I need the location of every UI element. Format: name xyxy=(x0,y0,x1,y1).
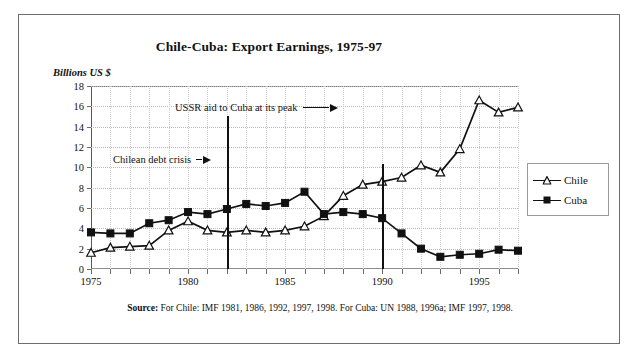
x-axis-tick-mark xyxy=(110,269,111,274)
chart-title: Chile-Cuba: Export Earnings, 1975-97 xyxy=(19,39,519,55)
x-axis-tick-mark xyxy=(91,269,92,274)
y-axis-tick-label: 6 xyxy=(54,203,84,214)
x-axis-tick-mark xyxy=(285,269,286,274)
annotation-text: USSR aid to Cuba at its peak xyxy=(175,102,298,113)
annotation-label: Chilean debt crisis xyxy=(113,154,211,165)
data-point-marker-square xyxy=(320,211,327,218)
x-axis-tick-mark xyxy=(382,269,383,274)
data-point-marker-square xyxy=(340,209,347,216)
x-axis-tick-mark xyxy=(402,269,403,274)
data-point-marker-triangle xyxy=(339,192,348,200)
legend-label: Cuba xyxy=(564,194,587,206)
annotation-vertical-line xyxy=(227,116,229,269)
data-point-marker-triangle xyxy=(475,96,484,104)
y-axis-tick-label: 12 xyxy=(54,142,84,153)
data-point-marker-square xyxy=(88,229,95,236)
legend-line-sample xyxy=(533,195,561,205)
y-axis-tick-label: 14 xyxy=(54,121,84,132)
x-axis-tick-mark xyxy=(421,269,422,274)
annotation-text: Chilean debt crisis xyxy=(113,154,191,165)
annotation-label: USSR aid to Cuba at its peak xyxy=(175,102,338,113)
data-point-marker-square xyxy=(359,211,366,218)
x-axis-tick-label: 1975 xyxy=(71,276,111,287)
x-axis-tick-mark xyxy=(266,269,267,274)
x-axis-tick-mark xyxy=(169,269,170,274)
legend-item-cuba[interactable]: Cuba xyxy=(533,191,587,209)
annotation-leader-line xyxy=(303,107,329,108)
data-point-marker-square xyxy=(185,209,192,216)
x-axis-tick-label: 1995 xyxy=(459,276,499,287)
x-axis-tick-mark xyxy=(324,269,325,274)
data-point-marker-square xyxy=(398,230,405,237)
annotation-arrow-icon xyxy=(203,156,211,164)
data-point-marker-square xyxy=(515,247,522,254)
annotation-leader-line xyxy=(196,159,202,160)
data-point-marker-triangle xyxy=(300,222,309,230)
data-point-marker-square xyxy=(204,211,211,218)
y-axis-tick-label: 0 xyxy=(54,264,84,275)
x-axis-tick-mark xyxy=(499,269,500,274)
annotation-arrow-icon xyxy=(330,104,338,112)
y-axis-label: Billions US $ xyxy=(53,67,111,78)
data-point-marker-square xyxy=(107,230,114,237)
annotation-vertical-line xyxy=(382,164,384,269)
data-point-marker-square xyxy=(126,230,133,237)
x-axis-tick-label: 1985 xyxy=(265,276,305,287)
data-point-marker-square xyxy=(243,200,250,207)
gridline-vertical xyxy=(518,86,519,269)
x-axis-tick-mark xyxy=(305,269,306,274)
x-axis-tick-mark xyxy=(149,269,150,274)
plot-area-wrapper: 024681012141618 19751980198519901995 USS… xyxy=(91,86,518,269)
legend-marker-square-icon xyxy=(544,197,551,204)
data-point-marker-square xyxy=(146,220,153,227)
source-note: Source: For Chile: IMF 1981, 1986, 1992,… xyxy=(19,303,621,313)
data-point-marker-triangle xyxy=(514,103,523,111)
y-axis-tick-label: 4 xyxy=(54,223,84,234)
legend-label: Chile xyxy=(564,174,588,186)
x-axis-tick-mark xyxy=(479,269,480,274)
x-axis-tick-mark xyxy=(460,269,461,274)
data-point-marker-square xyxy=(165,217,172,224)
data-point-marker-square xyxy=(262,202,269,209)
data-point-marker-triangle xyxy=(164,226,173,234)
x-axis-tick-mark xyxy=(363,269,364,274)
y-axis-tick-label: 10 xyxy=(54,162,84,173)
data-point-marker-square xyxy=(456,251,463,258)
x-axis-tick-mark xyxy=(440,269,441,274)
legend-line-sample xyxy=(533,175,561,185)
source-label: Source: xyxy=(127,303,158,313)
data-point-marker-triangle xyxy=(397,173,406,181)
legend-marker-triangle-icon xyxy=(543,176,552,184)
data-point-marker-square xyxy=(437,253,444,260)
x-axis-tick-mark xyxy=(188,269,189,274)
x-axis-tick-mark xyxy=(343,269,344,274)
data-point-marker-square xyxy=(282,199,289,206)
data-point-marker-square xyxy=(476,250,483,257)
data-point-marker-triangle xyxy=(184,217,193,225)
x-axis-tick-mark xyxy=(130,269,131,274)
y-axis-tick-label: 16 xyxy=(54,101,84,112)
series-lines xyxy=(91,86,518,269)
x-axis-tick-label: 1990 xyxy=(362,276,402,287)
y-axis-tick-label: 18 xyxy=(54,81,84,92)
figure-frame: Chile-Cuba: Export Earnings, 1975-97 Bil… xyxy=(18,14,620,344)
x-axis-tick-mark xyxy=(246,269,247,274)
data-point-marker-square xyxy=(417,245,424,252)
y-axis-tick-label: 2 xyxy=(54,243,84,254)
x-axis-tick-mark xyxy=(227,269,228,274)
data-point-marker-square xyxy=(495,246,502,253)
y-axis-tick-label: 8 xyxy=(54,182,84,193)
data-point-marker-triangle xyxy=(455,145,464,153)
x-axis-tick-mark xyxy=(207,269,208,274)
source-text: For Chile: IMF 1981, 1986, 1992, 1997, 1… xyxy=(158,303,513,313)
legend-item-chile[interactable]: Chile xyxy=(533,171,588,189)
data-point-marker-square xyxy=(301,188,308,195)
x-axis-tick-mark xyxy=(518,269,519,274)
x-axis-tick-label: 1980 xyxy=(168,276,208,287)
legend[interactable]: ChileCuba xyxy=(527,163,609,216)
data-point-marker-triangle xyxy=(417,161,426,169)
